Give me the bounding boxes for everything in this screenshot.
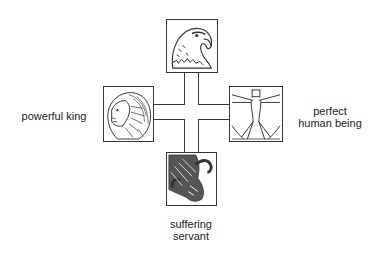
- man-label-line2: human being: [290, 117, 370, 129]
- cross-horizontal-bottom-left: [153, 119, 185, 120]
- ox-head-icon: [167, 153, 216, 205]
- lion-label: powerful king: [14, 110, 94, 122]
- ox-label-line2: servant: [151, 230, 231, 242]
- ox-box: [166, 152, 217, 206]
- cross-vertical-right-bottom: [198, 119, 199, 152]
- cross-vertical-right-top: [198, 72, 199, 105]
- ox-label-line1: suffering: [151, 218, 231, 230]
- eagle-box: [166, 19, 218, 73]
- cross-horizontal-top-right: [198, 104, 229, 105]
- cross-horizontal-top-left: [153, 104, 185, 105]
- cross-vertical-left-bottom: [184, 119, 185, 152]
- man-box: [229, 86, 283, 142]
- lion-head-icon: [104, 87, 153, 141]
- cross-vertical-left-top: [184, 72, 185, 105]
- cross-horizontal-bottom-right: [198, 119, 229, 120]
- man-label-line1: perfect: [290, 105, 370, 117]
- lion-box: [103, 86, 154, 142]
- vitruvian-man-icon: [230, 87, 282, 141]
- eagle-head-icon: [167, 20, 217, 72]
